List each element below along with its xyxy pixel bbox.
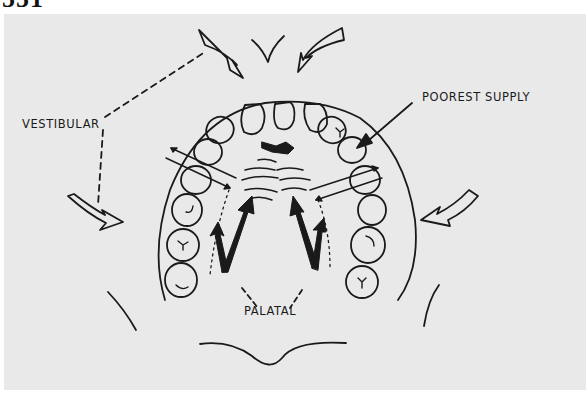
teeth-front xyxy=(241,102,327,134)
vestibular-arrow-left-icon xyxy=(68,194,123,230)
frenum-mark xyxy=(252,36,284,62)
soft-palate-curve xyxy=(200,343,346,365)
palatal-arrow-left-icon xyxy=(210,196,254,272)
incisive-arrow-icon xyxy=(262,142,294,154)
arch-outline xyxy=(159,102,416,300)
label-vestibular: VESTIBULAR xyxy=(22,117,100,131)
left-jaw-line xyxy=(108,292,136,330)
poorest-supply-leader xyxy=(369,103,412,140)
label-palatal: PALATAL xyxy=(244,304,296,318)
palate-diagram: VESTIBULAR POOREST SUPPLY PALATAL xyxy=(0,0,586,397)
vestibular-arrow-right-icon xyxy=(421,190,478,226)
palatal-rugae xyxy=(242,159,310,200)
vestibular-arrow-top-right-icon xyxy=(298,28,344,72)
left-crossing-arrows xyxy=(166,148,236,189)
right-jaw-line xyxy=(424,285,439,326)
vestibular-leader-top xyxy=(105,52,205,117)
teeth-right xyxy=(313,112,386,298)
vestibular-leader-down xyxy=(98,130,103,205)
vestibular-arrow-top-left-icon xyxy=(199,30,243,78)
label-poorest-supply: POOREST SUPPLY xyxy=(422,90,531,104)
